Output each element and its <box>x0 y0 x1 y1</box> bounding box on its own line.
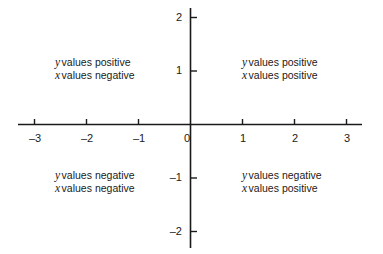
quadrant-label-lower-left-line-1: yvalues negative <box>55 169 135 182</box>
quadrant-phrase: values negative <box>62 169 135 181</box>
quadrant-label-upper-right-line-1: yvalues positive <box>242 56 317 69</box>
variable-y: y <box>55 169 62 181</box>
quadrant-label-upper-left-line-1: yvalues positive <box>55 56 135 69</box>
y-tick-label--2: –2 <box>156 226 182 237</box>
x-tick-label--3: –3 <box>22 133 48 144</box>
variable-y: y <box>55 56 62 68</box>
x-tick-label-3: 3 <box>334 133 360 144</box>
x-tick-label-2: 2 <box>282 133 308 144</box>
quadrant-phrase: values positive <box>249 69 318 81</box>
quadrant-label-upper-right-line-2: xvalues positive <box>242 69 317 82</box>
variable-x: x <box>55 69 62 81</box>
quadrant-label-lower-left-line-2: xvalues negative <box>55 182 135 195</box>
quadrant-label-upper-right: yvalues positive xvalues positive <box>242 56 317 82</box>
quadrant-phrase: values negative <box>249 169 322 181</box>
variable-x: x <box>242 182 249 194</box>
y-tick-label-2: 2 <box>156 12 182 23</box>
quadrant-label-upper-left: yvalues positive xvalues negative <box>55 56 135 82</box>
quadrant-label-lower-left: yvalues negative xvalues negative <box>55 169 135 195</box>
quadrant-label-lower-right-line-2: xvalues positive <box>242 182 322 195</box>
quadrant-sign-diagram: –3 –2 –1 0 1 2 3 2 1 –1 –2 yvalues posit… <box>0 0 383 254</box>
variable-x: x <box>55 182 62 194</box>
quadrant-phrase: values positive <box>249 56 318 68</box>
x-tick-label-0: 0 <box>174 133 200 144</box>
quadrant-label-lower-right: yvalues negative xvalues positive <box>242 169 322 195</box>
x-tick-label-1: 1 <box>230 133 256 144</box>
quadrant-label-upper-left-line-2: xvalues negative <box>55 69 135 82</box>
quadrant-phrase: values negative <box>62 182 135 194</box>
y-tick-label-1: 1 <box>156 65 182 76</box>
quadrant-phrase: values positive <box>62 56 131 68</box>
quadrant-phrase: values positive <box>249 182 318 194</box>
quadrant-phrase: values negative <box>62 69 135 81</box>
variable-x: x <box>242 69 249 81</box>
axes-group <box>0 0 383 254</box>
x-tick-label--1: –1 <box>126 133 152 144</box>
x-tick-label--2: –2 <box>74 133 100 144</box>
variable-y: y <box>242 56 249 68</box>
quadrant-label-lower-right-line-1: yvalues negative <box>242 169 322 182</box>
variable-y: y <box>242 169 249 181</box>
y-tick-label--1: –1 <box>156 172 182 183</box>
